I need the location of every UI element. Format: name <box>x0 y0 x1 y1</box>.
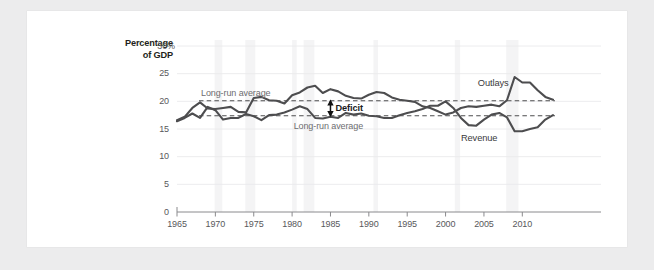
screenshot-root: Percentage of GDP 30%2520151050 19651970… <box>0 0 654 270</box>
x-tick-label: 1985 <box>310 219 350 229</box>
deficit-arrow-icon <box>327 100 333 117</box>
x-tick-label: 1995 <box>387 219 427 229</box>
axis-lines <box>177 207 601 212</box>
series-label-revenue: Revenue <box>461 133 498 143</box>
chart-card: Percentage of GDP 30%2520151050 19651970… <box>27 11 627 247</box>
long-run-average-revenue-label: Long-run average <box>294 121 363 131</box>
x-tick-label: 2000 <box>426 219 466 229</box>
y-tick-label: 15 <box>135 124 169 134</box>
long-run-average-outlays-label: Long-run average <box>201 88 270 98</box>
chart-figure: Percentage of GDP 30%2520151050 19651970… <box>27 11 627 247</box>
deficit-label: Deficit <box>335 103 362 113</box>
axis-ticks <box>177 212 522 217</box>
series-label-outlays: Outlays <box>478 78 509 88</box>
y-tick-label: 10 <box>135 151 169 161</box>
x-tick-label: 2005 <box>464 219 504 229</box>
y-tick-label: 25 <box>135 68 169 78</box>
y-tick-label: 5 <box>135 179 169 189</box>
y-tick-label: 0 <box>135 207 169 217</box>
x-tick-label: 1990 <box>349 219 389 229</box>
x-tick-label: 1970 <box>195 219 235 229</box>
x-tick-label: 1965 <box>157 219 197 229</box>
x-tick-label: 2010 <box>502 219 542 229</box>
x-tick-label: 1980 <box>272 219 312 229</box>
gridlines <box>177 46 601 184</box>
x-tick-label: 1975 <box>234 219 274 229</box>
y-tick-label: 20 <box>135 96 169 106</box>
y-tick-label: 30% <box>135 41 175 51</box>
